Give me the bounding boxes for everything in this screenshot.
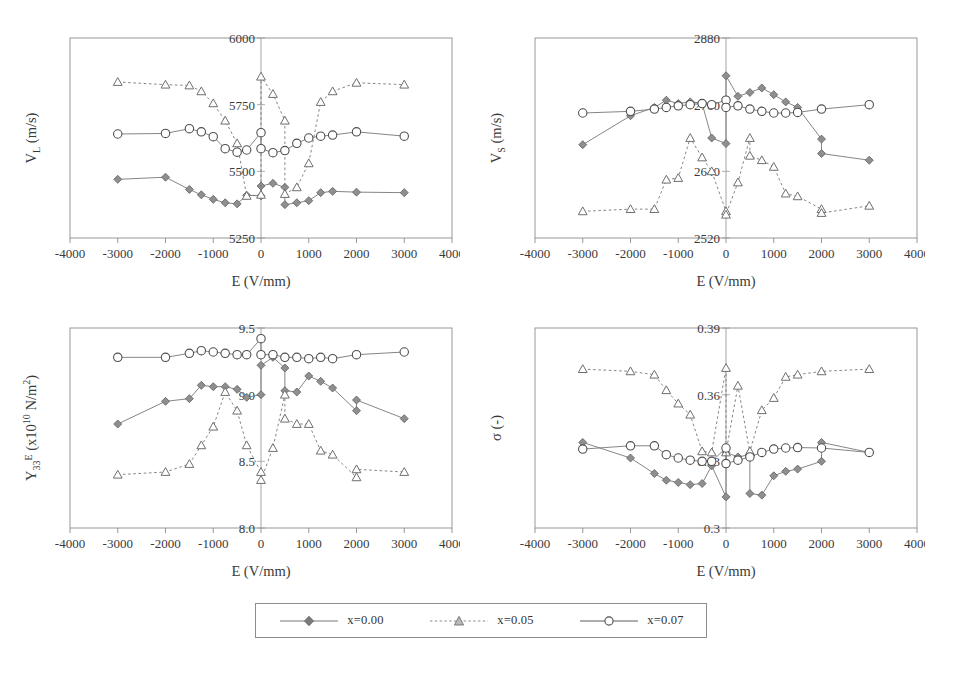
- data-point: [316, 132, 324, 140]
- data-point: [242, 350, 250, 358]
- legend-item-2: x=0.07: [578, 613, 683, 629]
- legend-swatch-0: [278, 613, 340, 629]
- svg-text:VS (m/s): VS (m/s): [488, 113, 507, 163]
- svg-text:Y33E (x1010 N/m2): Y33E (x1010 N/m2): [21, 375, 42, 481]
- data-point: [662, 103, 670, 111]
- y-axis-label: VS (m/s): [488, 113, 507, 163]
- data-point: [257, 391, 265, 399]
- data-point: [817, 444, 825, 452]
- data-point: [781, 189, 790, 197]
- x-axis-label: E (V/mm): [696, 273, 755, 290]
- data-point: [269, 350, 277, 358]
- data-point: [793, 443, 801, 451]
- data-point: [161, 353, 169, 361]
- data-point: [734, 102, 742, 110]
- data-point: [578, 207, 587, 215]
- data-point: [293, 353, 301, 361]
- y-axis-label: σ (-): [488, 415, 505, 441]
- data-point: [233, 148, 241, 156]
- data-point: [281, 353, 289, 361]
- legend-label-2: x=0.07: [644, 613, 683, 628]
- data-point: [293, 388, 301, 396]
- data-point: [257, 476, 266, 484]
- data-point: [698, 447, 707, 455]
- y-tick-label: 0.39: [697, 321, 720, 336]
- data-point: [578, 365, 587, 373]
- data-point: [794, 465, 802, 473]
- data-point: [758, 491, 766, 499]
- panel-top-left: -4000-3000-2000-100001000200030004000525…: [20, 20, 460, 305]
- data-point: [722, 72, 730, 80]
- data-point: [757, 156, 766, 164]
- legend-label-0: x=0.00: [344, 613, 383, 628]
- data-point: [197, 441, 206, 449]
- x-tick-label: 2000: [809, 246, 835, 261]
- x-tick-label: 0: [723, 246, 730, 261]
- x-tick-label: 0: [258, 536, 265, 551]
- data-point: [865, 365, 874, 373]
- data-point: [579, 141, 587, 149]
- data-point: [818, 150, 826, 158]
- x-tick-label: -4000: [55, 536, 85, 551]
- data-point: [662, 450, 670, 458]
- y-axis-label: Y33E (x1010 N/m2): [21, 375, 42, 481]
- x-tick-label: -2000: [615, 536, 645, 551]
- plot-bottom-right: -4000-3000-2000-1000010002000300040000.3…: [485, 310, 925, 595]
- legend-item-1: x=0.05: [428, 613, 533, 629]
- data-point: [707, 100, 715, 108]
- data-point: [113, 78, 122, 86]
- x-tick-label: 1000: [761, 536, 787, 551]
- x-axis-label: E (V/mm): [696, 563, 755, 580]
- x-tick-label: -3000: [568, 246, 598, 261]
- data-point: [316, 446, 325, 454]
- data-point: [353, 188, 361, 196]
- data-point: [197, 87, 206, 95]
- x-tick-label: 4000: [904, 246, 925, 261]
- legend-swatch-1: [428, 613, 490, 629]
- data-point: [316, 98, 325, 106]
- data-point: [626, 367, 635, 375]
- x-tick-label: -2000: [615, 246, 645, 261]
- x-tick-label: 1000: [761, 246, 787, 261]
- svg-text:VL (m/s): VL (m/s): [23, 112, 42, 163]
- data-point: [865, 156, 873, 164]
- y-tick-label: 0.3: [704, 521, 720, 536]
- data-point: [304, 420, 313, 428]
- plot-bottom-left: -4000-3000-2000-1000010002000300040008.0…: [20, 310, 460, 595]
- data-point: [769, 394, 778, 402]
- data-point: [161, 468, 170, 476]
- data-point: [650, 470, 658, 478]
- data-point: [662, 386, 671, 394]
- data-point: [818, 135, 826, 143]
- data-point: [161, 80, 170, 88]
- svg-text:σ (-): σ (-): [488, 415, 505, 441]
- data-point: [197, 191, 205, 199]
- x-tick-label: 4000: [439, 246, 460, 261]
- data-point: [758, 84, 766, 92]
- data-point: [865, 100, 873, 108]
- y-tick-label: 2880: [694, 31, 720, 46]
- x-tick-label: 1000: [296, 246, 322, 261]
- data-point: [782, 98, 790, 106]
- data-point: [305, 354, 313, 362]
- data-point: [257, 190, 266, 198]
- x-tick-label: 3000: [391, 246, 417, 261]
- data-point: [233, 350, 241, 358]
- data-point: [197, 346, 205, 354]
- data-point: [707, 448, 716, 456]
- y-tick-label: 8.0: [239, 521, 255, 536]
- data-point: [734, 381, 743, 389]
- data-point: [352, 465, 361, 473]
- data-point: [209, 383, 217, 391]
- data-point: [209, 132, 217, 140]
- data-point: [698, 480, 706, 488]
- x-tick-label: 0: [258, 246, 265, 261]
- data-point: [352, 78, 361, 86]
- data-point: [734, 178, 743, 186]
- data-point: [769, 162, 778, 170]
- y-tick-label: 6000: [229, 31, 255, 46]
- data-point: [280, 116, 289, 124]
- data-point: [746, 490, 754, 498]
- data-point: [674, 102, 682, 110]
- data-point: [305, 197, 313, 205]
